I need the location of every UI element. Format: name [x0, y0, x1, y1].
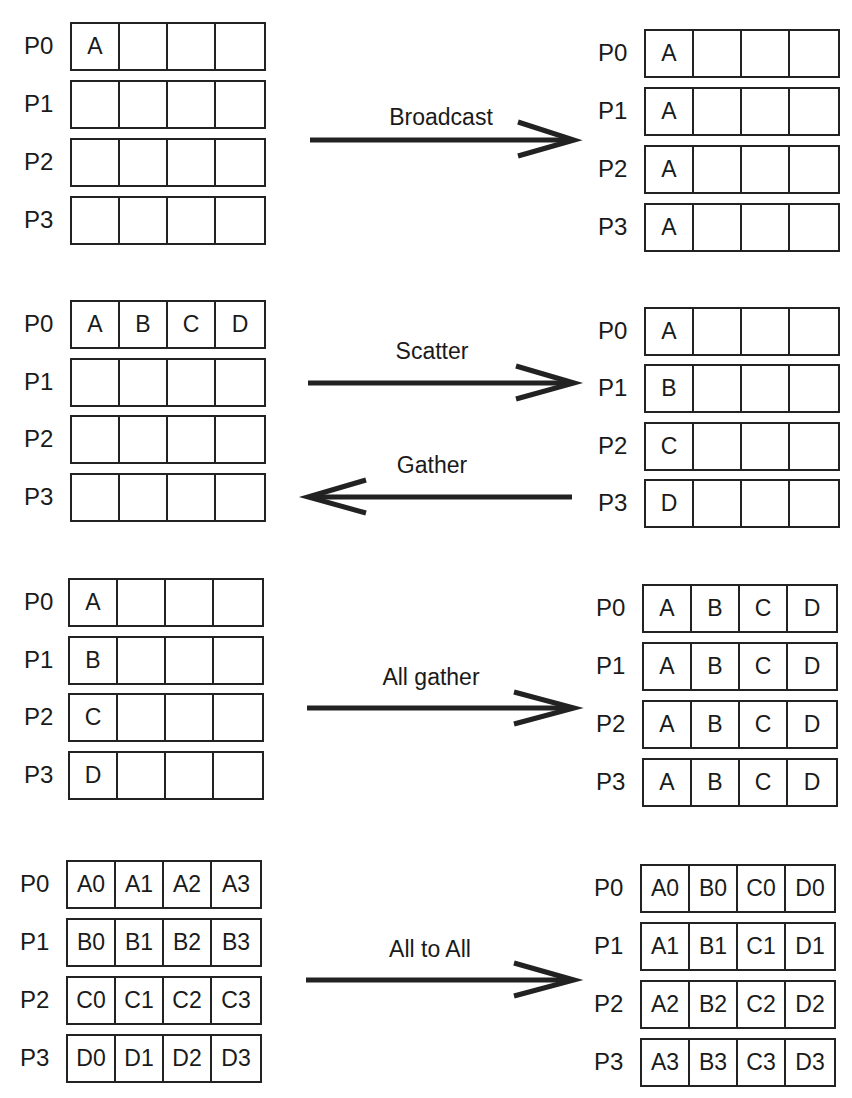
buffer-cell: C — [740, 586, 788, 631]
buffer-cell — [790, 147, 838, 192]
buffer-cell: B3 — [212, 920, 260, 965]
buffer: C — [68, 693, 264, 742]
buffer-cell — [694, 481, 742, 526]
buffer-cell — [694, 147, 742, 192]
buffer-cell: D0 — [786, 866, 834, 911]
proc-label: P3 — [598, 479, 627, 526]
buffer: C0 C1 C2 C3 — [66, 976, 262, 1025]
buffer-cell — [120, 417, 168, 462]
buffer: D — [644, 479, 840, 528]
buffer-cell: D2 — [786, 982, 834, 1027]
buffer-cell — [120, 360, 168, 405]
buffer-cell: D1 — [116, 1036, 164, 1081]
buffer-cell: A0 — [68, 862, 116, 907]
scatter-arrow-icon — [308, 366, 574, 399]
proc-label: P2 — [596, 700, 625, 747]
buffer-cell: C — [646, 424, 694, 469]
buffer-cell — [72, 82, 120, 127]
buffer-cell — [216, 360, 264, 405]
buffer-cell — [216, 24, 264, 69]
buffer-cell: B1 — [690, 924, 738, 969]
proc-label: P3 — [596, 758, 625, 805]
proc-label: P2 — [24, 138, 53, 185]
buffer-cell — [72, 417, 120, 462]
allgather-arrow-icon — [307, 692, 574, 724]
proc-label: P0 — [24, 300, 53, 347]
alltoall-arrow-icon — [306, 963, 574, 996]
buffer-cell: C — [740, 644, 788, 689]
buffer-cell — [790, 481, 838, 526]
buffer-cell: A — [644, 586, 692, 631]
buffer-cell — [72, 360, 120, 405]
buffer-cell: A — [72, 24, 120, 69]
proc-label: P0 — [24, 22, 53, 69]
buffer-cell: B — [646, 366, 694, 411]
buffer-cell — [790, 31, 838, 76]
buffer: B — [68, 636, 264, 685]
buffer: A — [644, 29, 840, 78]
buffer-cell — [214, 638, 262, 683]
buffer: A — [644, 203, 840, 252]
buffer-cell — [216, 198, 264, 243]
buffer-cell — [742, 147, 790, 192]
buffer-cell — [118, 580, 166, 625]
buffer-cell: B1 — [116, 920, 164, 965]
buffer-cell — [742, 31, 790, 76]
buffer-cell — [694, 309, 742, 354]
buffer-cell: A — [72, 302, 120, 347]
buffer: A3 B3 C3 D3 — [640, 1038, 836, 1087]
buffer-cell — [166, 753, 214, 798]
proc-label: P2 — [24, 693, 53, 740]
proc-label: P1 — [594, 922, 623, 969]
buffer-cell: D — [70, 753, 118, 798]
buffer-cell: B — [120, 302, 168, 347]
proc-label: P1 — [24, 80, 53, 127]
buffer-cell: C2 — [738, 982, 786, 1027]
buffer-cell — [790, 205, 838, 250]
proc-label: P0 — [598, 307, 627, 354]
buffer-cell — [72, 140, 120, 185]
buffer: A B C D — [70, 300, 266, 349]
buffer — [70, 138, 266, 187]
buffer-cell — [168, 140, 216, 185]
buffer-cell: B2 — [164, 920, 212, 965]
buffer-cell — [694, 424, 742, 469]
proc-label: P0 — [596, 584, 625, 631]
buffer-cell — [742, 424, 790, 469]
scatter-label: Scatter — [308, 338, 556, 365]
proc-label: P3 — [24, 196, 53, 243]
buffer-cell: A — [644, 644, 692, 689]
buffer-cell — [214, 695, 262, 740]
buffer-cell: D — [788, 760, 836, 805]
buffer-cell: A1 — [642, 924, 690, 969]
buffer-cell: C1 — [116, 978, 164, 1023]
buffer-cell — [118, 695, 166, 740]
buffer-cell — [216, 140, 264, 185]
buffer: A0 A1 A2 A3 — [66, 860, 262, 909]
buffer-cell — [742, 366, 790, 411]
buffer-cell — [742, 89, 790, 134]
proc-label: P3 — [24, 751, 53, 798]
buffer-cell — [790, 366, 838, 411]
buffer-cell — [168, 24, 216, 69]
buffer-cell: C — [168, 302, 216, 347]
buffer-cell: D2 — [164, 1036, 212, 1081]
buffer — [70, 358, 266, 407]
buffer-cell — [72, 198, 120, 243]
buffer: A B C D — [642, 642, 838, 691]
proc-label: P3 — [24, 473, 53, 520]
proc-label: P3 — [20, 1034, 49, 1081]
buffer-cell: B0 — [68, 920, 116, 965]
buffer: A — [68, 578, 264, 627]
buffer-cell: B — [692, 586, 740, 631]
buffer-cell — [166, 638, 214, 683]
buffer-cell: A — [644, 702, 692, 747]
buffer-cell: A3 — [642, 1040, 690, 1085]
proc-label: P1 — [24, 636, 53, 683]
buffer-cell — [166, 695, 214, 740]
buffer-cell — [120, 198, 168, 243]
buffer-cell: A0 — [642, 866, 690, 911]
proc-label: P1 — [20, 918, 49, 965]
proc-label: P2 — [598, 145, 627, 192]
buffer-cell — [168, 475, 216, 520]
